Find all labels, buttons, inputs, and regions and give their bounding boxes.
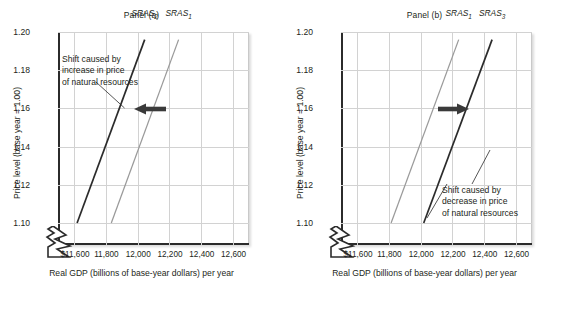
leader-line-to-sras3 [472,150,490,184]
xtick-12200: 12,200 [157,250,182,259]
xtick-11800: 11,800 [94,250,118,259]
ytick-1.14: 1.14 [273,142,313,152]
curve-label-sras2-sub: 2 [154,13,158,20]
curve-label-sras2: SRAS2 [132,8,158,20]
ytick-1.20: 1.20 [273,27,313,37]
ytick-1.20: 1.20 [0,27,30,37]
annotation-line-3: of natural resources [442,208,518,219]
xtick-12000: 12,000 [126,250,151,259]
annotation-line-2: decrease in price [442,196,518,207]
xtick-12000: 12,000 [409,250,434,259]
sras-shift-figure: Panel (a) [0,0,566,311]
annotation-line-2: increase in price [62,65,138,76]
panel-b-yaxis-title: Price level (base year = 1.00) [295,58,305,228]
ytick-1.16: 1.16 [273,103,313,113]
panel-a-xaxis-title: Real GDP (billions of base-year dollars)… [0,268,283,278]
curve-label-sras1: SRAS1 [165,8,191,20]
panel-b-xaxis-title: Real GDP (billions of base-year dollars)… [283,268,566,278]
curve-label-sras1-text: SRAS [165,8,188,18]
xtick-12400: 12,400 [472,250,497,259]
annotation-line-1: Shift caused by [442,185,518,196]
panel-a-yaxis-title: Price level (base year = 1.00) [12,58,22,228]
xtick-12200: 12,200 [440,250,465,259]
curve-label-sras2-text: SRAS [132,8,155,18]
panel-b-title: Panel (b) [283,10,566,20]
xtick-12400: 12,400 [189,250,214,259]
curve-label-sras1-text: SRAS [446,8,469,18]
panel-a-annotation: Shift caused by increase in price of nat… [62,54,138,88]
panel-b-plot-area: SRAS1 SRAS3 Shift caused by decrease in … [341,32,532,245]
annotation-line-1: Shift caused by [62,54,138,65]
curve-label-sras1-sub: 1 [188,13,192,20]
xtick-12600: 12,600 [221,250,246,259]
ytick-1.18: 1.18 [273,65,313,75]
shift-arrow-left [134,104,166,115]
curve-label-sras1: SRAS1 [446,8,472,20]
panel-b: Panel (b) [283,0,566,311]
curve-label-sras3: SRAS3 [479,8,505,20]
ytick-1.12: 1.12 [273,180,313,190]
xtick-11800: 11,800 [377,250,401,259]
xtick-11600: $11,600 [344,250,373,259]
curve-label-sras3-text: SRAS [479,8,502,18]
panel-a: Panel (a) [0,0,283,311]
xtick-11600: $11,600 [61,250,90,259]
panel-a-plot-area: SRAS2 SRAS1 Shift caused by increase in … [58,32,249,245]
curve-label-sras3-sub: 3 [502,13,506,20]
xtick-12600: 12,600 [504,250,529,259]
ytick-1.10: 1.10 [273,218,313,228]
panel-b-annotation: Shift caused by decrease in price of nat… [442,185,518,219]
curve-label-sras1-sub: 1 [468,13,472,20]
annotation-line-3: of natural resources [62,77,138,88]
